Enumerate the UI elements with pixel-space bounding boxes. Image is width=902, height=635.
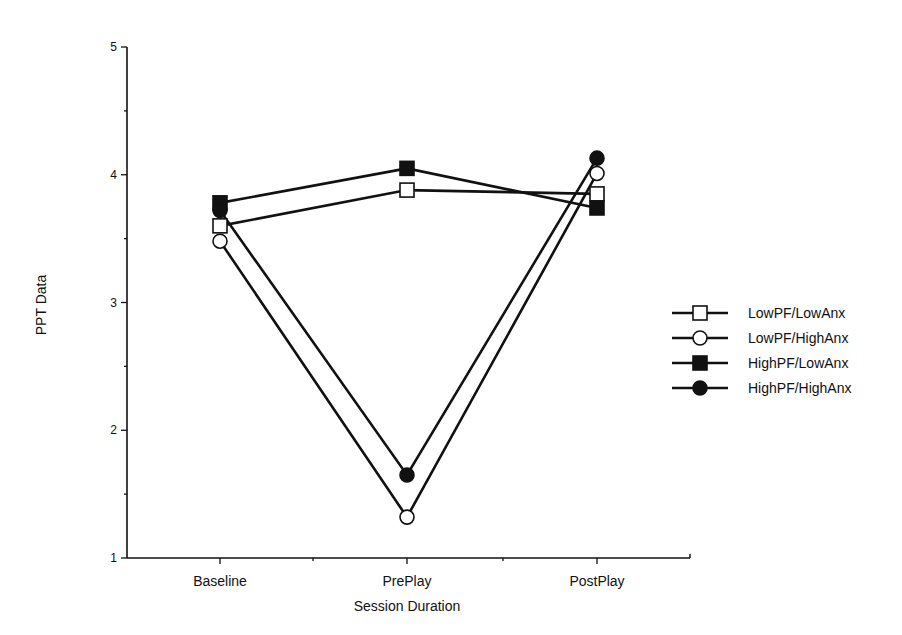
data-point-highpf-highanx: [590, 151, 604, 165]
x-tick-label: Baseline: [193, 573, 247, 589]
y-axis-title: PPT Data: [33, 275, 49, 336]
x-axis-title: Session Duration: [354, 598, 461, 614]
y-tick-label: 1: [110, 551, 117, 565]
series-line-lowpf-highanx: [220, 173, 597, 517]
data-point-lowpf-lowanx: [213, 219, 227, 233]
data-point-highpf-lowanx: [400, 161, 414, 175]
line-chart: 12345 BaselinePrePlayPostPlay Session Du…: [0, 0, 902, 635]
legend-marker: [693, 331, 707, 345]
series-line-highpf-highanx: [220, 158, 597, 475]
legend: LowPF/LowAnxLowPF/HighAnxHighPF/LowAnxHi…: [672, 305, 852, 396]
data-point-lowpf-highanx: [400, 510, 414, 524]
x-tick-label: PrePlay: [382, 573, 431, 589]
data-point-lowpf-highanx: [590, 166, 604, 180]
x-axis-ticks: BaselinePrePlayPostPlay: [193, 558, 624, 589]
y-tick-label: 5: [110, 40, 117, 54]
legend-label: HighPF/LowAnx: [748, 355, 848, 371]
y-tick-label: 2: [110, 423, 117, 437]
data-point-highpf-lowanx: [590, 201, 604, 215]
data-point-lowpf-lowanx: [590, 187, 604, 201]
series-group: [213, 151, 604, 524]
data-point-lowpf-lowanx: [400, 183, 414, 197]
y-tick-label: 4: [110, 168, 117, 182]
legend-marker: [693, 356, 707, 370]
legend-marker: [693, 306, 707, 320]
legend-label: LowPF/HighAnx: [748, 330, 848, 346]
data-point-highpf-highanx: [400, 468, 414, 482]
legend-label: HighPF/HighAnx: [748, 380, 852, 396]
data-point-lowpf-highanx: [213, 234, 227, 248]
y-axis-ticks: 12345: [110, 40, 127, 565]
y-tick-label: 3: [110, 296, 117, 310]
data-point-highpf-highanx: [213, 204, 227, 218]
legend-marker: [693, 381, 707, 395]
x-tick-label: PostPlay: [569, 573, 624, 589]
legend-label: LowPF/LowAnx: [748, 305, 845, 321]
